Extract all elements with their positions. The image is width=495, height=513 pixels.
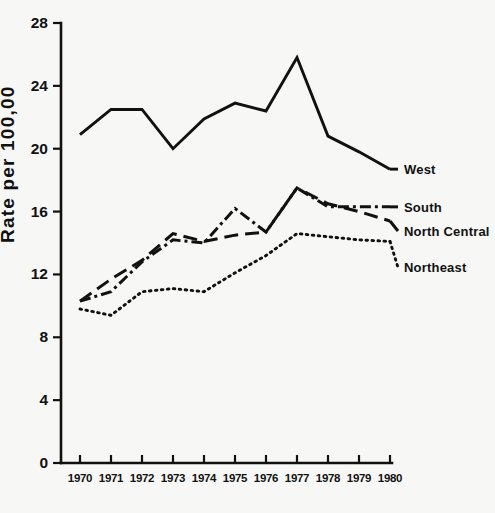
chart-canvas — [0, 0, 495, 513]
legend-stub-northeast — [390, 241, 398, 267]
x-tick-label: 1970 — [68, 472, 92, 484]
y-tick-label: 8 — [39, 328, 48, 346]
series-line-north-central — [80, 188, 390, 301]
x-tick-label: 1973 — [161, 472, 185, 484]
y-tick-label: 0 — [39, 454, 48, 472]
x-tick-label: 1980 — [378, 472, 402, 484]
x-tick-label: 1974 — [192, 472, 216, 484]
y-tick-label: 24 — [31, 77, 48, 95]
x-tick-label: 1978 — [316, 472, 340, 484]
series-line-northeast — [80, 234, 390, 316]
x-tick-label: 1977 — [285, 472, 309, 484]
y-tick-label: 4 — [39, 391, 48, 409]
series-lines — [80, 58, 390, 316]
legend-stub-north-central — [390, 221, 398, 231]
x-tick-label: 1975 — [223, 472, 247, 484]
axes — [61, 23, 392, 463]
legend-label-south: South — [404, 199, 442, 214]
series-line-south — [80, 188, 390, 301]
y-tick-label: 12 — [31, 265, 48, 283]
x-tick-label: 1971 — [99, 472, 123, 484]
y-tick-label: 16 — [31, 203, 48, 221]
line-chart: 0481216202428 19701971197219731974197519… — [0, 0, 495, 513]
series-line-west — [80, 58, 390, 170]
legend-line-stubs — [390, 169, 398, 267]
y-tick-label: 28 — [31, 14, 48, 32]
legend-label-north-central: North Central — [404, 224, 490, 239]
x-tick-label: 1979 — [347, 472, 371, 484]
legend-label-west: West — [404, 162, 436, 177]
legend-label-northeast: Northeast — [404, 260, 466, 275]
y-axis-title: Rate per 100,00 — [0, 86, 19, 243]
x-tick-label: 1976 — [254, 472, 278, 484]
y-tick-label: 20 — [31, 140, 48, 158]
x-tick-label: 1972 — [130, 472, 154, 484]
